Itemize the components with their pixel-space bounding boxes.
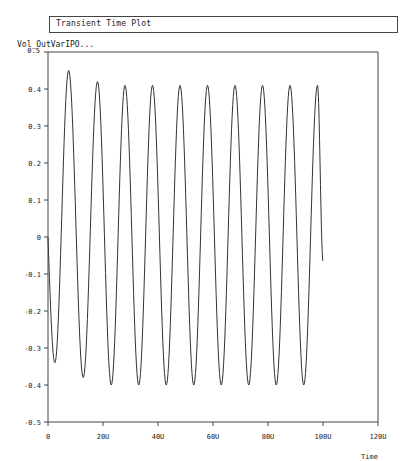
y-tick-label: 0.4 bbox=[28, 86, 41, 94]
x-tick-label: 0 bbox=[46, 433, 50, 441]
y-tick-label: -0.5 bbox=[24, 419, 41, 427]
x-tick-label: 80U bbox=[262, 433, 275, 441]
y-tick-label: 0.3 bbox=[28, 123, 41, 131]
axes-frame bbox=[48, 52, 378, 422]
x-tick-label: 100U bbox=[315, 433, 332, 441]
x-axis-ticks: 020U40U60U80U100U120U bbox=[46, 422, 387, 441]
y-axis-ticks: 0.40.30.20.10-0.1-0.2-0.3-0.4-0.50.5 bbox=[24, 47, 48, 427]
x-tick-label: 20U bbox=[97, 433, 110, 441]
x-tick-label: 60U bbox=[207, 433, 220, 441]
plot-area: 0.40.30.20.10-0.1-0.2-0.3-0.4-0.50.5 020… bbox=[0, 0, 403, 461]
y-tick-label: 0.1 bbox=[28, 197, 41, 205]
y-tick-label: 0 bbox=[37, 234, 41, 242]
y-tick-label: -0.2 bbox=[24, 308, 41, 316]
x-axis-label: Time bbox=[361, 453, 378, 461]
x-tick-label: 40U bbox=[152, 433, 165, 441]
y-tick-label: -0.3 bbox=[24, 345, 41, 353]
y-tick-label: -0.4 bbox=[24, 382, 41, 390]
x-tick-label: 120U bbox=[370, 433, 387, 441]
y-tick-label: 0.5 bbox=[27, 47, 40, 55]
y-tick-label: 0.2 bbox=[28, 160, 41, 168]
y-tick-label: -0.1 bbox=[24, 271, 41, 279]
signal-trace bbox=[48, 71, 323, 386]
